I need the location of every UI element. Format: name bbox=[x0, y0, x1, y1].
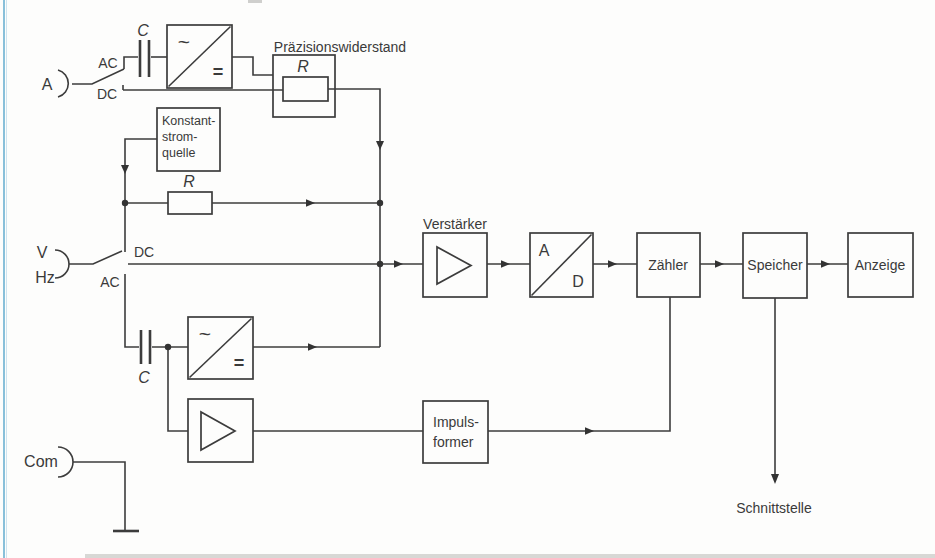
counter: Zähler bbox=[637, 233, 700, 297]
voltage-switch-ac-label: AC bbox=[100, 274, 119, 290]
current-switch: AC DC bbox=[72, 55, 124, 102]
ad-converter: A D bbox=[530, 233, 593, 297]
constant-current-source-line1: Konstant- bbox=[162, 114, 216, 128]
wire-ac-branch bbox=[125, 274, 139, 347]
capacitor-top-symbol: C bbox=[137, 22, 149, 39]
arrow-right-icon bbox=[608, 260, 617, 268]
terminal-a-label: A bbox=[42, 76, 53, 93]
terminal-v-hz: V Hz bbox=[35, 244, 69, 286]
current-switch-ac-label: AC bbox=[98, 55, 117, 71]
pulse-shaper-line1: Impuls- bbox=[433, 414, 479, 430]
junction-dot bbox=[122, 200, 128, 206]
converter-1-dc-symbol: = bbox=[213, 62, 224, 82]
terminal-com: Com bbox=[24, 447, 139, 531]
converter-1-ac-symbol: ~ bbox=[178, 30, 190, 53]
junction-dot bbox=[377, 200, 383, 206]
frequency-amplifier-box bbox=[188, 399, 253, 462]
ac-dc-converter-1: ~ = bbox=[167, 25, 273, 88]
range-resistor: R bbox=[125, 173, 380, 215]
constant-current-source: Konstant- strom- quelle bbox=[125, 108, 220, 252]
jack-arc-icon bbox=[55, 250, 69, 278]
wire-freq-branch bbox=[168, 347, 188, 431]
arrow-down-icon bbox=[376, 141, 384, 150]
figure-multimeter-block-diagram: A AC DC C ~ = Präzisionswider bbox=[0, 0, 935, 558]
range-resistor-symbol: R bbox=[183, 173, 195, 190]
precision-resistor-title: Präzisionswiderstand bbox=[274, 39, 406, 55]
terminal-v-label: V bbox=[37, 244, 48, 261]
jack-arc-icon bbox=[58, 70, 68, 97]
voltage-switch: DC AC bbox=[69, 244, 154, 290]
capacitor-top: C bbox=[124, 22, 167, 78]
switch-blade bbox=[72, 69, 124, 84]
capacitor-bottom-symbol: C bbox=[138, 369, 150, 386]
display: Anzeige bbox=[848, 233, 913, 297]
memory: Speicher bbox=[743, 233, 807, 298]
wire-trunk bbox=[328, 89, 380, 347]
constant-current-source-line2: strom- bbox=[162, 130, 197, 144]
arrow-down-icon bbox=[121, 165, 129, 174]
wire-ac-to-cap bbox=[124, 57, 138, 69]
amplifier: Verstärker bbox=[423, 216, 487, 297]
arrow-right-icon bbox=[308, 343, 317, 351]
arrow-right-icon bbox=[585, 427, 594, 435]
junction-dot bbox=[377, 261, 383, 267]
ac-dc-converter-2: ~ = bbox=[188, 317, 380, 379]
current-switch-dc-label: DC bbox=[97, 86, 117, 102]
amplifier-label: Verstärker bbox=[423, 216, 487, 232]
terminal-com-label: Com bbox=[24, 453, 58, 470]
pulse-shaper-line2: former bbox=[433, 434, 474, 450]
voltage-switch-dc-label: DC bbox=[134, 244, 154, 260]
jack-arc-icon bbox=[58, 447, 73, 477]
block-diagram-svg: A AC DC C ~ = Präzisionswider bbox=[0, 0, 935, 558]
pulse-shaper-box bbox=[423, 401, 488, 463]
wire-com-to-ground bbox=[73, 462, 125, 530]
interface: Schnittstelle bbox=[736, 298, 812, 516]
converter-2-ac-symbol: ~ bbox=[199, 322, 211, 345]
precision-resistor: Präzisionswiderstand R bbox=[273, 39, 406, 347]
switch-blade bbox=[69, 251, 122, 264]
arrow-right-icon bbox=[394, 260, 403, 268]
ad-converter-d-label: D bbox=[572, 273, 584, 290]
ad-converter-a-label: A bbox=[539, 242, 550, 259]
converter-2-dc-symbol: = bbox=[234, 353, 245, 373]
terminal-hz-label: Hz bbox=[35, 269, 55, 286]
terminal-a: A bbox=[42, 70, 69, 97]
constant-current-source-line3: quelle bbox=[162, 146, 195, 160]
counter-label: Zähler bbox=[648, 257, 688, 273]
amplifier-triangle-icon bbox=[201, 412, 235, 450]
frequency-amplifier bbox=[168, 347, 423, 462]
resistor-icon bbox=[168, 192, 212, 214]
arrow-right-icon bbox=[715, 260, 724, 268]
wire-converter1-out bbox=[232, 57, 273, 75]
arrow-right-icon bbox=[306, 199, 315, 207]
precision-resistor-symbol: R bbox=[297, 58, 309, 75]
wire-ccs-to-switch bbox=[125, 139, 157, 252]
arrow-down-icon bbox=[771, 474, 779, 484]
wire-pulse-to-counter bbox=[488, 297, 670, 431]
junction-dot bbox=[165, 344, 171, 350]
capacitor-bottom: C bbox=[125, 274, 188, 386]
arrow-right-icon bbox=[501, 260, 510, 268]
display-label: Anzeige bbox=[855, 257, 906, 273]
arrow-right-icon bbox=[821, 260, 830, 268]
pulse-shaper: Impuls- former bbox=[423, 297, 670, 463]
amplifier-box bbox=[423, 233, 487, 297]
resistor-icon bbox=[283, 77, 328, 101]
interface-label: Schnittstelle bbox=[736, 500, 812, 516]
amplifier-triangle-icon bbox=[437, 247, 471, 284]
memory-label: Speicher bbox=[747, 257, 803, 273]
